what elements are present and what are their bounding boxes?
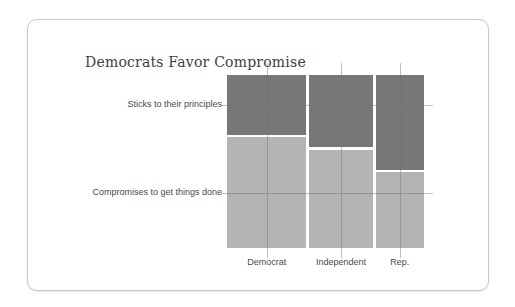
x-axis-label-rep: Rep. — [355, 257, 445, 268]
mosaic-segment-compromises-to-get-things-done-democrat[interactable] — [227, 137, 306, 248]
y-axis-label-sticks-to-their-principles: Sticks to their principles — [127, 99, 222, 110]
mosaic-segment-compromises-to-get-things-done-rep[interactable] — [376, 172, 424, 248]
mosaic-segment-sticks-to-their-principles-independent[interactable] — [309, 75, 372, 147]
mosaic-segment-sticks-to-their-principles-rep[interactable] — [376, 75, 424, 170]
mosaic-segment-sticks-to-their-principles-democrat[interactable] — [227, 75, 306, 135]
y-axis-label-compromises-to-get-things-done: Compromises to get things done — [92, 187, 222, 198]
mosaic-segment-compromises-to-get-things-done-independent[interactable] — [309, 150, 372, 248]
mosaic-plot — [227, 75, 424, 248]
chart-title: Democrats Favor Compromise — [85, 54, 306, 70]
screenshot-canvas: Democrats Favor Compromise Sticks to the… — [0, 0, 515, 307]
